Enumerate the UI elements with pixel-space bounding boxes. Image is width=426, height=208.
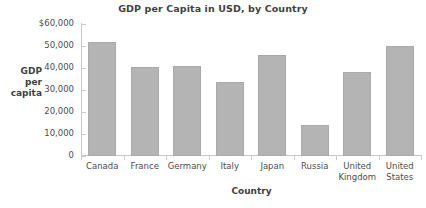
- chart-title: GDP per Capita in USD, by Country: [0, 3, 426, 14]
- x-tick-mark: [166, 156, 167, 160]
- y-tick-label: 50,000: [0, 40, 74, 50]
- y-tick-label: 30,000: [0, 84, 74, 94]
- bar: [88, 42, 116, 156]
- y-tick-label: 10,000: [0, 128, 74, 138]
- bar: [258, 55, 286, 156]
- plot-area: [81, 24, 421, 156]
- x-axis-label-line: United: [373, 161, 426, 172]
- bar: [216, 82, 244, 156]
- y-tick-label: 0: [0, 150, 74, 160]
- bar: [131, 67, 159, 156]
- x-axis-label-line: States: [373, 172, 426, 183]
- bar: [343, 72, 371, 156]
- bar: [301, 125, 329, 156]
- y-tick-label: 40,000: [0, 62, 74, 72]
- bar-chart: GDP per Capita in USD, by Country GDP pe…: [0, 0, 426, 208]
- bar: [173, 66, 201, 156]
- x-tick-mark: [379, 156, 380, 160]
- y-tick-label: $60,000: [0, 18, 74, 28]
- y-tick-label: 20,000: [0, 106, 74, 116]
- x-tick-mark: [336, 156, 337, 160]
- x-axis-title: Country: [81, 186, 422, 196]
- x-tick-mark: [294, 156, 295, 160]
- bar: [386, 46, 414, 156]
- x-tick-mark: [209, 156, 210, 160]
- x-axis-label: UnitedStates: [373, 161, 426, 182]
- x-tick-mark: [124, 156, 125, 160]
- x-tick-mark: [81, 156, 82, 160]
- x-tick-mark: [251, 156, 252, 160]
- x-tick-mark: [421, 156, 422, 160]
